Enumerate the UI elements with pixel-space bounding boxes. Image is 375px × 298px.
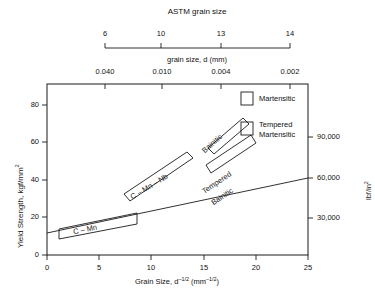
y2-axis-ticks (308, 137, 313, 218)
y-ticklabel-80: 80 (31, 101, 39, 109)
y-axis-ticks (42, 105, 47, 255)
x-axis-title-units-close: ) (216, 277, 219, 286)
grain-size-ticks (105, 84, 290, 89)
y-ticklabel-60: 60 (31, 138, 39, 146)
y2-axis-title-exponent: 2 (363, 181, 369, 184)
y2-ticklabel-60000: 60,000 (317, 174, 340, 182)
grain-size-ticklabel-0004: 0.004 (212, 68, 231, 76)
x-axis-title: Grain Size, d–1/2 (mm–1/2) (135, 278, 219, 286)
legend-label-martensitic: Martensitic (259, 94, 295, 104)
x-ticklabel-15: 15 (200, 264, 208, 272)
x-ticklabel-10: 10 (147, 264, 155, 272)
x-axis-title-exponent-2: –1/2 (206, 276, 217, 282)
x-ticklabel-5: 5 (97, 264, 101, 272)
x-ticklabel-25: 25 (304, 264, 312, 272)
y2-ticklabel-30000: 30,000 (317, 214, 340, 222)
x-axis-ticks (47, 255, 308, 260)
y2-axis-title: lbf/in2 (364, 181, 373, 200)
legend-swatch-martensitic (241, 92, 253, 105)
y-axis-title-exponent: 2 (14, 164, 20, 167)
y-ticklabel-20: 20 (31, 213, 39, 221)
astm-ticklabel-10: 10 (157, 30, 165, 38)
legend-label-tempered-martensitic-line1: Tempered (259, 120, 292, 130)
grain-size-ticklabel-0002: 0.002 (281, 68, 300, 76)
x-ticklabel-20: 20 (252, 264, 260, 272)
astm-axis (105, 43, 290, 48)
chart-figure: ASTM grain size 6 10 13 14 grain size, d… (0, 0, 375, 298)
y2-axis-title-main: lbf/in (364, 184, 373, 200)
astm-ticklabel-13: 13 (217, 30, 225, 38)
x-axis-title-exponent-1: –1/2 (178, 276, 189, 282)
y-axis-title-main: Yield Strength, kgf/mm (16, 167, 25, 248)
grain-size-ticklabel-0040: 0.040 (96, 68, 115, 76)
astm-ticklabel-14: 14 (286, 30, 294, 38)
x-axis-title-main: Grain Size, d (135, 277, 178, 286)
grain-size-ticklabel-0010: 0.010 (153, 68, 172, 76)
astm-ticklabel-6: 6 (103, 30, 107, 38)
astm-axis-title: ASTM grain size (168, 8, 227, 16)
chart-svg (0, 0, 375, 298)
y-axis-title: Yield Strength, kgf/mm2 (16, 164, 25, 248)
y-ticklabel-0: 0 (35, 251, 39, 259)
legend-swatch-tempered-martensitic (241, 122, 253, 135)
grain-size-axis-title: grain size, d (mm) (167, 56, 227, 64)
x-ticklabel-0: 0 (45, 264, 49, 272)
y2-ticklabel-90000: 90,000 (317, 133, 340, 141)
x-axis-title-units-open: (mm (191, 277, 206, 286)
y-ticklabel-40: 40 (31, 176, 39, 184)
legend-label-tempered-martensitic-line2: Martensitic (259, 130, 295, 140)
